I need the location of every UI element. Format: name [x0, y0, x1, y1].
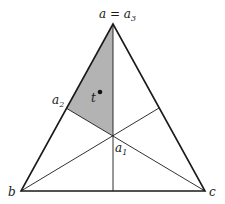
label-b: b [8, 185, 16, 199]
label-a2: a2 [52, 93, 64, 109]
point-t [98, 90, 103, 95]
label-t: t [91, 91, 96, 105]
median-from-c [66, 108, 205, 191]
triangle-diagram: a = a3 a2 t a1 b c [0, 0, 225, 204]
label-c: c [209, 185, 216, 199]
label-apex: a = a3 [99, 7, 136, 23]
shaded-region [66, 24, 113, 136]
